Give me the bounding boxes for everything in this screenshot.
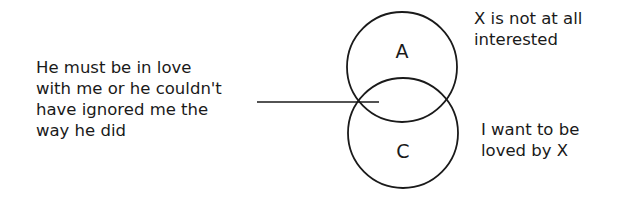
left-statement-line: with me or he couldn't — [36, 78, 222, 99]
left-statement-line: He must be in love — [36, 57, 222, 78]
circle-a — [347, 12, 457, 122]
description-line: X is not at all — [474, 8, 582, 29]
description-line: I want to be — [481, 119, 579, 140]
circle-a-description: X is not at allinterested — [474, 8, 582, 50]
left-statement-line: have ignored me the — [36, 99, 222, 120]
left-statement: He must be in lovewith me or he couldn't… — [36, 57, 222, 141]
description-line: interested — [474, 29, 582, 50]
circle-a-label: A — [396, 40, 409, 62]
circle-c-label: C — [396, 140, 409, 162]
left-statement-line: way he did — [36, 120, 222, 141]
circle-c-description: I want to beloved by X — [481, 119, 579, 161]
description-line: loved by X — [481, 140, 579, 161]
circle-c — [348, 78, 458, 188]
